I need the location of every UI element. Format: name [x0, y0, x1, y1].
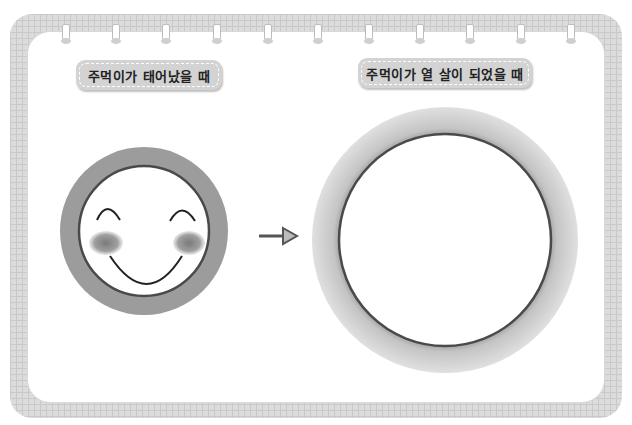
label-born-text: 주먹이가 태어났을 때: [88, 66, 211, 85]
label-ten-years-text: 주먹이가 열 살이 되었을 때: [366, 64, 524, 83]
ring-pin: [517, 24, 525, 40]
ring-pin: [112, 24, 120, 40]
arrow-right-icon: [258, 226, 300, 246]
ring-pin: [264, 24, 272, 40]
ring-pin: [314, 24, 322, 40]
ring-pin: [567, 24, 575, 40]
ring-pin: [416, 24, 424, 40]
ring-pin: [466, 24, 474, 40]
ring-pin: [162, 24, 170, 40]
label-ten-years: 주먹이가 열 살이 되었을 때: [358, 58, 532, 88]
ring-pin: [213, 24, 221, 40]
ring-pin: [365, 24, 373, 40]
ring-pin: [62, 24, 70, 40]
empty-circle-icon: [306, 102, 582, 378]
label-born: 주먹이가 태어났을 때: [76, 60, 222, 90]
smiley-face-icon: [50, 144, 240, 316]
